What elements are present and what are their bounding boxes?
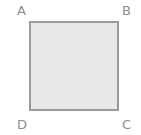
figure-canvas [0,0,141,135]
vertex-label-d: D [17,118,27,131]
vertex-label-a: A [17,4,26,17]
shaded-segment [30,22,118,110]
vertex-label-b: B [122,4,131,17]
vertex-label-c: C [122,118,131,131]
geometry-figure: A B C D [0,0,141,135]
